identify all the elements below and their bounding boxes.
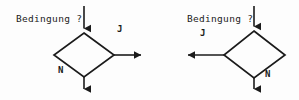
decision-left-condition-label: Bedingung ?: [16, 14, 82, 24]
decision-right-yes-label: J: [200, 29, 206, 38]
flowchart-diagram: Bedingung ? J N Bedingung ? J N: [0, 0, 299, 100]
decision-right-diamond: [224, 31, 285, 78]
decision-right-no-label: N: [265, 70, 271, 79]
decision-left-yes-label: J: [117, 25, 123, 34]
decision-right-condition-label: Bedingung ?: [187, 14, 253, 24]
decision-left-no-label: N: [58, 66, 64, 75]
